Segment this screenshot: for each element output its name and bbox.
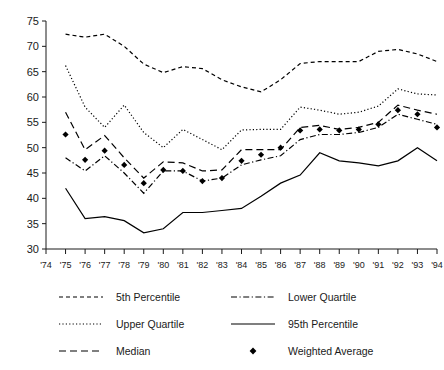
y-axis-label: 30 xyxy=(27,243,39,255)
solid-line-sample xyxy=(230,318,276,330)
x-axis-label: '77 xyxy=(99,260,111,270)
legend-label: 5th Percentile xyxy=(116,291,180,303)
y-axis-label: 55 xyxy=(27,116,39,128)
x-axis-label: '78 xyxy=(118,260,130,270)
data-point-weighted-average xyxy=(395,107,401,113)
legend-label: Median xyxy=(116,345,150,357)
x-axis-label: '85 xyxy=(255,260,267,270)
dashed-line-sample xyxy=(58,291,104,303)
data-point-weighted-average xyxy=(180,168,186,174)
x-axis-label: '93 xyxy=(412,260,424,270)
dash-dot-line-sample xyxy=(230,291,276,303)
data-point-weighted-average xyxy=(414,111,420,117)
x-axis-label: '87 xyxy=(294,260,306,270)
data-point-weighted-average xyxy=(102,148,108,154)
y-axis-label: 35 xyxy=(27,218,39,230)
x-axis-label: '86 xyxy=(275,260,287,270)
legend-item-lower-quartile[interactable]: Lower Quartile xyxy=(230,291,430,303)
data-point-weighted-average xyxy=(199,178,205,184)
x-axis-label: '88 xyxy=(314,260,326,270)
y-axis-label: 65 xyxy=(27,66,39,78)
series-line-upper-quartile xyxy=(66,66,437,150)
diamond-marker-sample xyxy=(230,345,276,357)
y-axis-label: 70 xyxy=(27,40,39,52)
x-axis-label: '75 xyxy=(60,260,72,270)
x-axis-label: '81 xyxy=(177,260,189,270)
legend-item-upper-quartile[interactable]: Upper Quartile xyxy=(58,318,230,330)
chart-page: 30354045505560657075'74'75'76'77'78'79'8… xyxy=(0,0,444,370)
x-axis-label: '94 xyxy=(431,260,443,270)
data-point-weighted-average xyxy=(258,152,264,158)
data-point-weighted-average xyxy=(141,180,147,186)
y-axis-label: 45 xyxy=(27,167,39,179)
legend-item-median[interactable]: Median xyxy=(58,345,230,357)
x-axis-label: '76 xyxy=(79,260,91,270)
x-axis-label: '83 xyxy=(216,260,228,270)
data-point-weighted-average xyxy=(317,126,323,132)
data-point-weighted-average xyxy=(82,157,88,163)
y-axis-label: 60 xyxy=(27,91,39,103)
x-axis-label: '79 xyxy=(138,260,150,270)
plot-area: 30354045505560657075'74'75'76'77'78'79'8… xyxy=(0,0,444,275)
data-point-weighted-average xyxy=(375,121,381,127)
legend-label: Weighted Average xyxy=(288,345,373,357)
line-chart: 30354045505560657075'74'75'76'77'78'79'8… xyxy=(0,0,444,275)
y-axis-label: 40 xyxy=(27,192,39,204)
series-line-5th-percentile xyxy=(66,34,437,92)
dotted-line-sample xyxy=(58,318,104,330)
x-axis-label: '74 xyxy=(40,260,52,270)
y-axis-label: 75 xyxy=(27,15,39,27)
x-axis-label: '90 xyxy=(353,260,365,270)
data-point-weighted-average xyxy=(336,127,342,133)
data-point-weighted-average xyxy=(62,131,68,137)
chart-legend: 5th PercentileLower QuartileUpper Quarti… xyxy=(0,283,444,363)
data-point-weighted-average xyxy=(160,167,166,173)
data-point-weighted-average xyxy=(121,162,127,168)
x-axis-label: '89 xyxy=(333,260,345,270)
y-axis-label: 50 xyxy=(27,142,39,154)
series-line-median xyxy=(66,105,437,178)
x-axis-label: '91 xyxy=(372,260,384,270)
legend-label: Lower Quartile xyxy=(288,291,356,303)
long-dash-line-sample xyxy=(58,345,104,357)
legend-label: 95th Percentile xyxy=(288,318,358,330)
legend-label: Upper Quartile xyxy=(116,318,184,330)
x-axis-label: '92 xyxy=(392,260,404,270)
x-axis-label: '84 xyxy=(236,260,248,270)
x-axis-label: '80 xyxy=(157,260,169,270)
data-point-weighted-average xyxy=(238,158,244,164)
data-point-weighted-average xyxy=(297,127,303,133)
x-axis-label: '82 xyxy=(197,260,209,270)
data-point-weighted-average xyxy=(434,124,440,130)
series-line-95th-percentile xyxy=(66,148,437,233)
legend-item-5th-percentile[interactable]: 5th Percentile xyxy=(58,291,230,303)
legend-item-95th-percentile[interactable]: 95th Percentile xyxy=(230,318,430,330)
legend-item-weighted-average[interactable]: Weighted Average xyxy=(230,345,430,357)
